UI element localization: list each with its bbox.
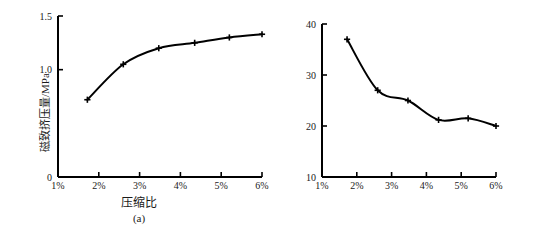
data-line [347, 39, 496, 126]
data-point-marker [435, 117, 441, 123]
svg-text:1%: 1% [315, 180, 328, 191]
svg-text:20: 20 [306, 121, 316, 132]
svg-text:1%: 1% [51, 180, 64, 191]
data-point-marker [192, 40, 198, 46]
svg-text:6%: 6% [255, 180, 268, 191]
data-point-marker [259, 31, 265, 37]
chart-a-x-axis-title: 压缩比 [0, 193, 278, 211]
chart-b-canvas: 102030401%2%3%4%5%6% [278, 0, 556, 240]
svg-text:6%: 6% [489, 180, 502, 191]
svg-text:4%: 4% [174, 180, 187, 191]
svg-text:1.5: 1.5 [40, 11, 53, 22]
svg-text:3%: 3% [385, 180, 398, 191]
svg-text:4%: 4% [420, 180, 433, 191]
svg-text:40: 40 [306, 19, 316, 30]
svg-text:5%: 5% [215, 180, 228, 191]
data-point-marker [493, 123, 499, 129]
data-point-marker [226, 34, 232, 40]
chart-a-y-axis-title: 磁致挤压量/MPa [36, 73, 52, 152]
svg-text:30: 30 [306, 70, 316, 81]
svg-text:5%: 5% [455, 180, 468, 191]
data-point-marker [465, 115, 471, 121]
svg-text:2%: 2% [92, 180, 105, 191]
svg-text:3%: 3% [133, 180, 146, 191]
data-point-marker [156, 45, 162, 51]
figure-root: 01.01.51%2%3%4%5%6% 磁致挤压量/MPa 压缩比 (a) 10… [0, 0, 556, 240]
chart-a-caption: (a) [0, 212, 278, 224]
chart-panel-b: 102030401%2%3%4%5%6% 磁流变效应/% 压缩比 (b) [278, 0, 556, 240]
chart-panel-a: 01.01.51%2%3%4%5%6% 磁致挤压量/MPa 压缩比 (a) [0, 0, 278, 240]
svg-text:2%: 2% [350, 180, 363, 191]
data-line [87, 34, 262, 99]
